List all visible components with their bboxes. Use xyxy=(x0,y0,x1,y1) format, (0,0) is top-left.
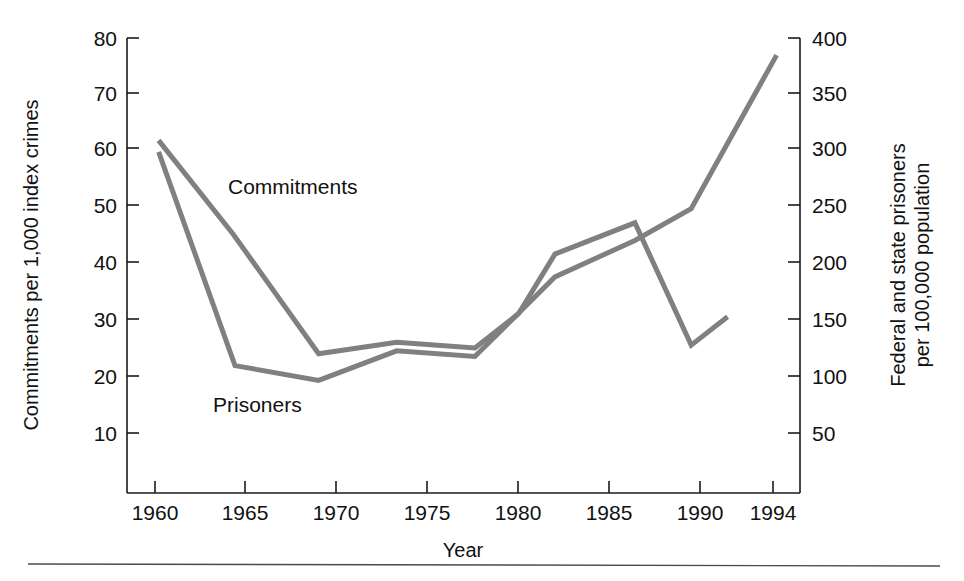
y-axis-left-ticks xyxy=(127,38,139,433)
x-label-1980: 1980 xyxy=(495,501,542,524)
y-left-label-30: 30 xyxy=(94,308,117,331)
x-axis-tick-labels: 1960 1965 1970 1975 1980 1985 1990 1994 xyxy=(132,501,797,524)
x-label-1975: 1975 xyxy=(404,501,451,524)
series-line-commitments xyxy=(159,140,728,353)
y-left-label-50: 50 xyxy=(94,194,117,217)
y-axis-left-tick-labels: 80 70 60 50 40 30 20 10 xyxy=(94,27,117,445)
y-axis-right-tick-labels: 400 350 300 250 200 150 100 50 xyxy=(812,27,847,445)
y-right-label-250: 250 xyxy=(812,194,847,217)
y-left-label-10: 10 xyxy=(94,422,117,445)
y-right-label-350: 350 xyxy=(812,82,847,105)
x-label-1970: 1970 xyxy=(313,501,360,524)
line-chart: 80 70 60 50 40 30 20 10 400 350 300 250 … xyxy=(0,0,964,581)
y-right-label-400: 400 xyxy=(812,27,847,50)
y-right-label-200: 200 xyxy=(812,251,847,274)
y-left-label-70: 70 xyxy=(94,82,117,105)
x-label-1985: 1985 xyxy=(586,501,633,524)
y-left-label-40: 40 xyxy=(94,251,117,274)
series-annotation-prisoners: Prisoners xyxy=(213,393,302,416)
y-right-label-150: 150 xyxy=(812,308,847,331)
footer-divider xyxy=(28,564,940,566)
y-axis-right-title-line2: per 100,000 population xyxy=(911,163,933,368)
x-label-1994: 1994 xyxy=(750,501,797,524)
x-axis-ticks xyxy=(155,481,773,493)
y-left-label-60: 60 xyxy=(94,137,117,160)
x-label-1990: 1990 xyxy=(677,501,724,524)
y-right-label-100: 100 xyxy=(812,365,847,388)
y-axis-right-title-line1: Federal and state prisoners xyxy=(887,143,909,386)
figure-container: 80 70 60 50 40 30 20 10 400 350 300 250 … xyxy=(0,0,964,581)
x-axis-title: Year xyxy=(443,539,484,561)
x-label-1960: 1960 xyxy=(132,501,179,524)
series-annotation-commitments: Commitments xyxy=(228,175,358,198)
x-label-1965: 1965 xyxy=(222,501,269,524)
y-right-label-300: 300 xyxy=(812,137,847,160)
y-axis-left-title: Commitments per 1,000 index crimes xyxy=(20,99,42,430)
y-right-label-50: 50 xyxy=(812,422,835,445)
y-axis-right-ticks xyxy=(788,38,800,433)
y-left-label-20: 20 xyxy=(94,365,117,388)
y-left-label-80: 80 xyxy=(94,27,117,50)
